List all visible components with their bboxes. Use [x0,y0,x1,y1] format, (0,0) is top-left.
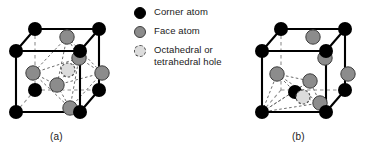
corner-atom [274,22,288,36]
corner-atom [28,83,42,97]
corner-atom [28,22,42,36]
corner-atom [92,83,106,97]
corner-atom [338,83,352,97]
legend-label-face-atom: Face atom [154,25,200,37]
hole-swatch [134,44,154,57]
filled-black-circle-icon [134,7,146,19]
face-atom [50,78,64,92]
unit-cell-diagram-a [0,0,140,130]
caption-b: (b) [292,131,305,142]
corner-atom [92,22,106,36]
corner-atom [319,105,333,119]
face-atom-swatch [134,25,154,38]
corner-atom [73,44,87,58]
legend: Corner atom Face atom Octahedral or tetr… [134,6,246,73]
face-atom [26,66,40,80]
legend-label-hole: Octahedral or tetrahedral hole [154,44,222,67]
legend-item-hole: Octahedral or tetrahedral hole [134,44,246,67]
legend-label-corner-atom: Corner atom [154,6,208,18]
filled-gray-circle-icon [134,26,146,38]
face-atom [270,67,284,81]
dashed-light-circle-icon [134,45,146,57]
unit-cell-diagram-b [244,0,374,130]
corner-atom [255,105,269,119]
corner-atom [255,44,269,58]
face-atom [306,30,320,44]
face-atom [95,66,109,80]
legend-item-face-atom: Face atom [134,25,246,38]
corner-atom [319,44,333,58]
face-atom [341,67,355,81]
face-atom [60,30,74,44]
corner-atom [9,44,23,58]
caption-a: (a) [50,131,63,142]
legend-item-corner-atom: Corner atom [134,6,246,19]
tetrahedral-hole [296,90,310,104]
corner-atom [73,105,87,119]
figure-root: Corner atom Face atom Octahedral or tetr… [0,0,374,149]
corner-atom [9,105,23,119]
corner-atom [338,22,352,36]
octahedral-hole [61,63,75,77]
face-atom [303,74,317,88]
corner-atom-swatch [134,6,154,19]
